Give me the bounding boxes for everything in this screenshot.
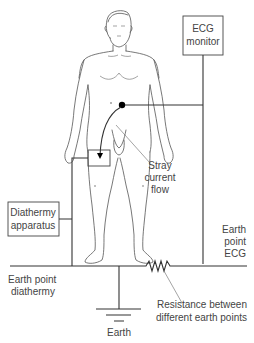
earth-bus-line: [10, 261, 247, 271]
svg-text:Earth point: Earth point: [8, 274, 57, 285]
svg-text:Diathermy: Diathermy: [10, 207, 56, 218]
stray-current-arrow: [97, 107, 121, 159]
svg-text:flow: flow: [151, 184, 170, 195]
ecg-monitor-label-1: ECG: [192, 23, 214, 34]
earth-point-ecg-label: Earth point ECG: [222, 224, 246, 259]
diathermy-wire: [59, 158, 88, 266]
diathermy-plate: [88, 150, 110, 166]
human-figure: [65, 11, 173, 264]
diathermy-apparatus: Diathermy apparatus: [8, 202, 59, 236]
earth-label: Earth: [107, 327, 131, 338]
svg-text:point: point: [224, 236, 246, 247]
earth-ground-icon: [96, 266, 141, 321]
svg-text:ECG: ECG: [224, 248, 246, 259]
svg-text:Resistance between: Resistance between: [157, 299, 247, 310]
ecg-monitor-label-2: monitor: [186, 36, 220, 47]
stray-current-label: Stray current flow: [144, 160, 175, 195]
svg-text:current: current: [144, 172, 175, 183]
stray-current-diagram: ECG monitor Stray current flow Diathermy…: [0, 0, 254, 343]
svg-text:Earth: Earth: [222, 224, 246, 235]
earth-point-diathermy-label: Earth point diathermy: [8, 274, 57, 297]
svg-text:different earth points: different earth points: [156, 312, 247, 323]
ecg-monitor: ECG monitor: [183, 16, 223, 55]
stray-leader-line: [116, 125, 150, 163]
svg-text:diathermy: diathermy: [11, 286, 55, 297]
svg-text:Stray: Stray: [148, 160, 171, 171]
svg-text:apparatus: apparatus: [11, 220, 55, 231]
resistance-label: Resistance between different earth point…: [156, 299, 247, 323]
